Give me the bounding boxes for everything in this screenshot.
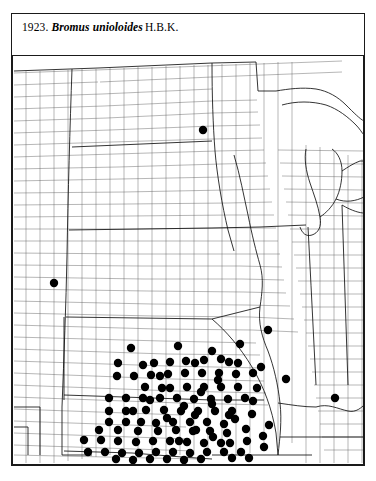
occurrence-dot	[248, 410, 256, 418]
occurrence-dot	[197, 388, 205, 396]
occurrence-dot	[189, 427, 197, 435]
occurrence-dot	[129, 407, 137, 415]
occurrence-dot	[160, 406, 168, 414]
occurrence-dot	[174, 342, 182, 350]
occurrence-dot	[172, 426, 180, 434]
occurrence-dot	[175, 437, 183, 445]
occurrence-dot	[129, 456, 137, 464]
state-boundaries	[14, 62, 364, 459]
occurrence-dot	[223, 429, 231, 437]
occurrence-dot	[200, 356, 208, 364]
occurrence-dot	[220, 420, 228, 428]
occurrence-dot	[177, 407, 185, 415]
occurrence-dot	[234, 383, 242, 391]
occurrence-dot	[142, 406, 150, 414]
occurrence-dot	[156, 372, 164, 380]
occurrence-dot	[192, 426, 200, 434]
occurrence-dot	[114, 437, 122, 445]
occurrence-dot	[186, 418, 194, 426]
occurrence-dot	[105, 418, 113, 426]
occurrence-dot	[197, 455, 205, 463]
occurrence-dot	[146, 396, 154, 404]
occurrence-dot	[199, 126, 207, 134]
occurrence-dot	[228, 407, 236, 415]
occurrence-dot	[132, 438, 140, 446]
occurrence-dot-layer	[50, 126, 339, 464]
occurrence-dot	[226, 439, 234, 447]
occurrence-dot	[200, 383, 208, 391]
occurrence-dot	[127, 344, 135, 352]
occurrence-dot	[114, 359, 122, 367]
occurrence-dot	[169, 418, 177, 426]
occurrence-dot	[105, 407, 113, 415]
occurrence-dot	[208, 347, 216, 355]
taxon-authority: H.B.K.	[145, 21, 179, 33]
occurrence-dot	[209, 433, 217, 441]
occurrence-dot	[224, 395, 232, 403]
occurrence-dot	[231, 415, 239, 423]
occurrence-dot	[198, 369, 206, 377]
occurrence-dot	[217, 439, 225, 447]
occurrence-dot	[206, 427, 214, 435]
occurrence-dot	[186, 449, 194, 457]
occurrence-dot	[97, 436, 105, 444]
occurrence-dot	[225, 411, 233, 419]
occurrence-dot	[264, 326, 272, 334]
occurrence-dot	[114, 426, 122, 434]
occurrence-dot	[194, 407, 202, 415]
occurrence-dot	[203, 448, 211, 456]
occurrence-dot	[163, 414, 171, 422]
occurrence-dot	[80, 436, 88, 444]
distribution-map	[12, 55, 364, 465]
occurrence-dot	[242, 425, 250, 433]
occurrence-dot	[169, 448, 177, 456]
occurrence-dot	[122, 407, 130, 415]
occurrence-dot	[265, 421, 273, 429]
occurrence-dot	[166, 358, 174, 366]
occurrence-dot	[105, 394, 113, 402]
occurrence-dot	[113, 372, 121, 380]
occurrence-dot	[236, 340, 244, 348]
occurrence-dot	[164, 370, 172, 378]
occurrence-dot	[217, 383, 225, 391]
occurrence-dot	[182, 357, 190, 365]
taxon-name: Bromus unioloides	[48, 21, 145, 33]
occurrence-dot	[253, 384, 261, 392]
occurrence-dot	[259, 432, 267, 440]
occurrence-dot	[181, 369, 189, 377]
occurrence-dot	[211, 407, 219, 415]
occurrence-dot	[203, 418, 211, 426]
occurrence-dot	[154, 427, 162, 435]
occurrence-dot	[225, 358, 233, 366]
occurrence-dot	[234, 359, 242, 367]
plate-number: 1923.	[22, 21, 48, 33]
occurrence-dot	[146, 455, 154, 463]
plate-page: 1923.Bromus unioloidesH.B.K.	[0, 0, 376, 481]
plate-caption: 1923.Bromus unioloidesH.B.K.	[22, 20, 178, 34]
occurrence-dot	[200, 439, 208, 447]
occurrence-dot	[183, 383, 191, 391]
occurrence-dot	[150, 359, 158, 367]
occurrence-dot	[282, 375, 290, 383]
occurrence-dot	[112, 455, 120, 463]
occurrence-dot	[241, 394, 249, 402]
occurrence-dot	[158, 384, 166, 392]
occurrence-dot	[191, 359, 199, 367]
occurrence-dot	[130, 372, 138, 380]
occurrence-dot	[217, 355, 225, 363]
occurrence-dot	[191, 411, 199, 419]
